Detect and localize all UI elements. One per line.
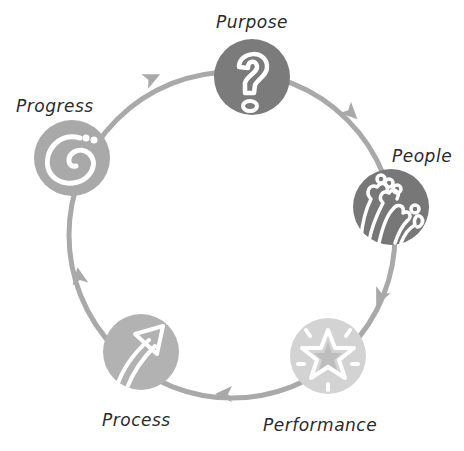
purpose-label: Purpose <box>216 12 288 32</box>
node-performance <box>290 318 366 394</box>
node-people <box>353 169 429 245</box>
cycle-diagram <box>0 0 464 451</box>
process-label: Process <box>102 410 171 430</box>
node-process <box>103 314 179 390</box>
cycle-nodes <box>34 39 429 394</box>
process-circle <box>103 314 179 390</box>
people-label: People <box>392 146 452 166</box>
arrow-head-icon <box>141 67 163 89</box>
node-purpose <box>214 39 290 115</box>
progress-label: Progress <box>16 96 94 116</box>
performance-label: Performance <box>263 415 377 435</box>
node-progress <box>34 120 110 196</box>
